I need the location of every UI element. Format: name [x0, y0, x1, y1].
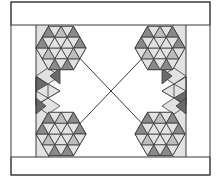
bottom-band — [11, 157, 210, 175]
top-band — [11, 2, 210, 25]
quilt-diagram — [0, 0, 224, 189]
quilt-svg — [0, 0, 224, 189]
